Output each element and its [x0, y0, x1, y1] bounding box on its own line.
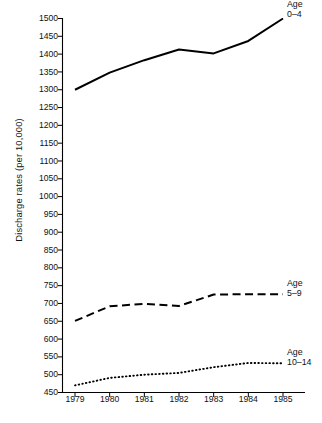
- legend-label-line2: 5–9: [287, 288, 303, 298]
- axis-lines: [63, 18, 306, 393]
- x-axis-ticks: [75, 393, 283, 398]
- series-line-1: [75, 19, 283, 90]
- series-lines: [75, 19, 283, 386]
- legend-label-series-1: Age0–4: [287, 0, 303, 19]
- legend-label-line2: 10–14: [287, 357, 311, 367]
- legend-label-line1: Age: [287, 0, 303, 9]
- series-line-3: [75, 363, 283, 385]
- y-axis-ticks: [58, 19, 63, 393]
- chart-figure: Discharge rates (per 10,000) 45050055060…: [0, 0, 322, 423]
- legend-label-line1: Age: [287, 278, 303, 288]
- axis-spine: [63, 18, 306, 393]
- legend-label-line1: Age: [287, 347, 311, 357]
- plot-canvas: [0, 0, 322, 423]
- legend-label-series-3: Age10–14: [287, 347, 311, 367]
- series-line-2: [75, 294, 283, 321]
- legend-label-series-2: Age5–9: [287, 278, 303, 298]
- legend-label-line2: 0–4: [287, 9, 303, 19]
